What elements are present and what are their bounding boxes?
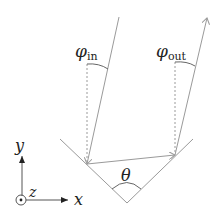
x-axis-label: x	[74, 190, 83, 209]
y-axis-label: y	[14, 136, 25, 155]
right-mirror-line	[127, 139, 193, 203]
left-mirror-line	[60, 139, 127, 203]
phi-in-arc	[87, 64, 108, 69]
outgoing-ray	[175, 18, 207, 155]
theta-label: θ	[121, 166, 131, 185]
incoming-ray	[87, 17, 119, 164]
phi-out-label: φout	[156, 41, 187, 63]
z-axis-label: z	[28, 184, 37, 200]
phi-in-label: φin	[75, 41, 98, 63]
reflection-diagram: φin φout θ y x z	[0, 0, 216, 217]
internal-ray	[87, 155, 175, 164]
z-axis-dot-icon	[20, 199, 23, 202]
